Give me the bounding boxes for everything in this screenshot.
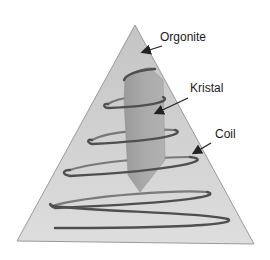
label-coil: Coil <box>215 128 236 140</box>
orgonite-diagram: Orgonite Kristal Coil <box>0 0 270 260</box>
label-kristal: Kristal <box>190 82 223 94</box>
label-orgonite: Orgonite <box>160 31 206 43</box>
